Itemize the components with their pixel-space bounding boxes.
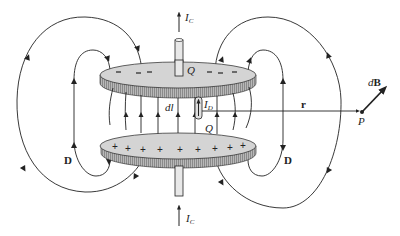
label-q-top: Q bbox=[187, 65, 195, 76]
label-dl: dl bbox=[165, 102, 174, 113]
svg-text:+: + bbox=[157, 144, 163, 155]
label-db: dB bbox=[368, 77, 381, 88]
label-id: ID bbox=[204, 99, 213, 112]
d-field-loop-outer-left bbox=[17, 17, 142, 192]
displacement-current-element bbox=[195, 97, 202, 119]
label-r: r bbox=[301, 99, 306, 110]
svg-text:+: + bbox=[140, 144, 146, 155]
svg-text:+: + bbox=[177, 144, 183, 155]
label-d-right: D bbox=[284, 155, 292, 166]
label-p: P bbox=[358, 116, 365, 127]
svg-text:+: + bbox=[240, 140, 246, 151]
d-field-loop-outer-right bbox=[215, 17, 341, 208]
capacitor-diagram: + + + + + + + + + bbox=[0, 0, 400, 236]
svg-text:+: + bbox=[112, 141, 118, 152]
label-ic-bottom: IC bbox=[186, 213, 194, 226]
label-q-bottom: Q bbox=[205, 123, 213, 134]
bottom-wire bbox=[175, 166, 183, 226]
svg-text:+: + bbox=[125, 143, 131, 154]
top-plate bbox=[100, 60, 256, 98]
svg-text:+: + bbox=[195, 144, 201, 155]
label-ic-top: IC bbox=[185, 12, 193, 25]
svg-text:+: + bbox=[212, 143, 218, 154]
svg-text:+: + bbox=[227, 142, 233, 153]
label-d-left: D bbox=[64, 155, 72, 166]
